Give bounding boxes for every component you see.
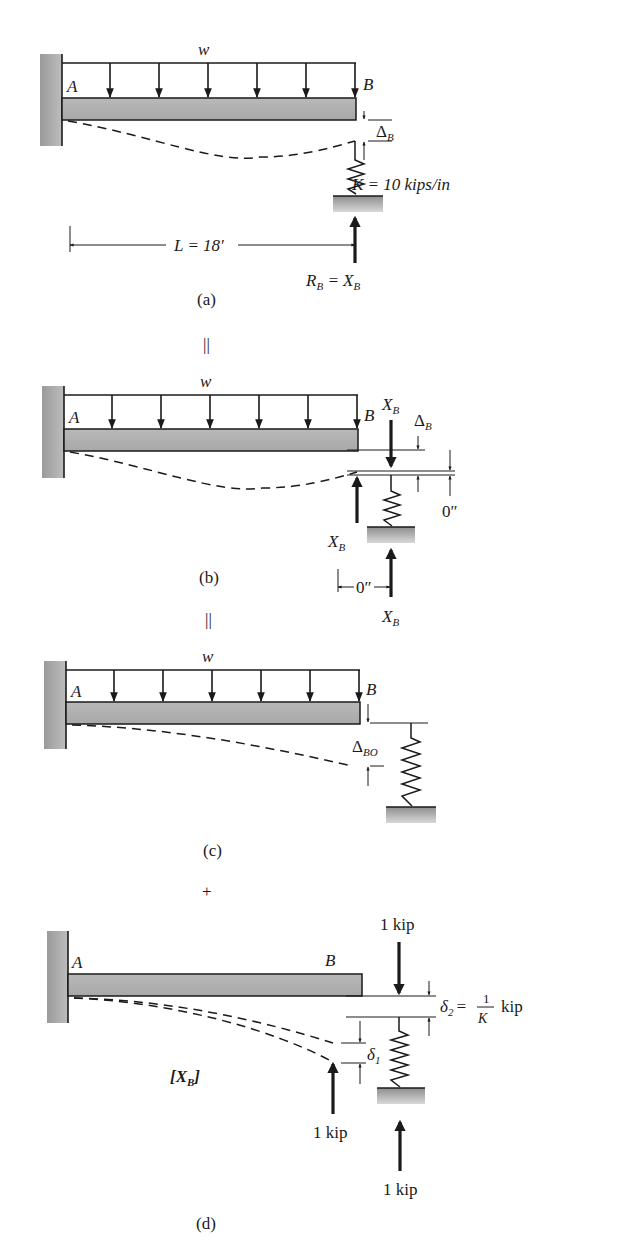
point-label-a: A xyxy=(68,408,80,427)
spring xyxy=(384,475,400,526)
cantilever-beam xyxy=(66,702,360,724)
deflection-label: ΔB xyxy=(414,411,432,432)
point-label-b: B xyxy=(366,680,377,699)
deflected-shape xyxy=(70,452,357,489)
equals-separator-2: || xyxy=(205,610,212,629)
span-label: L = 18′ xyxy=(173,236,224,255)
spring-top-force-label: XB xyxy=(381,395,399,416)
fixed-support-wall xyxy=(42,386,64,478)
spring-bottom-force-label: 1 kip xyxy=(383,1180,417,1199)
fixed-support-wall xyxy=(40,54,62,146)
delta2-label: δ2= 1 K kip xyxy=(440,991,523,1026)
caption-a: (a) xyxy=(197,290,216,309)
delta1-label: δ1 xyxy=(367,1045,380,1066)
reaction-label: RB = XB xyxy=(305,271,360,292)
deflected-shape-rigid xyxy=(74,998,333,1062)
caption-d: (d) xyxy=(196,1214,216,1233)
svg-text:δ2=: δ2= xyxy=(440,997,467,1018)
diagram-canvas: w A B ΔB K = 10 kips/in L = 18′ RB = XB … xyxy=(0,0,621,1258)
spring xyxy=(402,723,420,806)
spring-top-force-label: 1 kip xyxy=(380,915,414,934)
svg-text:kip: kip xyxy=(501,997,523,1016)
svg-text:K: K xyxy=(477,1011,488,1026)
offset-label: 0″ xyxy=(356,578,372,597)
spring-ground xyxy=(367,527,415,543)
cantilever-beam xyxy=(64,429,358,451)
point-label-b: B xyxy=(325,951,336,970)
spring-stiffness-label: K = 10 kips/in xyxy=(351,175,450,194)
cantilever-beam xyxy=(62,98,356,120)
plus-separator: + xyxy=(202,882,212,901)
fixed-support-wall xyxy=(47,931,68,1023)
deflection-label: ΔB xyxy=(376,122,394,143)
load-label-w: w xyxy=(202,647,214,666)
spring-bottom-force-label: XB xyxy=(381,607,399,628)
point-label-b: B xyxy=(364,406,375,425)
deflected-shape xyxy=(68,121,355,158)
caption-b: (b) xyxy=(199,568,219,587)
deflection-label: ΔBO xyxy=(352,737,378,758)
deflected-shape-spring xyxy=(74,998,333,1043)
fixed-support-wall xyxy=(44,661,66,749)
spring-ground xyxy=(333,196,383,212)
svg-text:1: 1 xyxy=(483,991,490,1006)
redundant-label: [XB] xyxy=(170,1067,200,1088)
distributed-load xyxy=(62,63,356,97)
beam-force-label: XB xyxy=(327,532,345,553)
point-label-a: A xyxy=(71,953,83,972)
point-label-a: A xyxy=(66,77,78,96)
load-label-w: w xyxy=(200,372,212,391)
panel-b: w A B XB XB ΔB 0″ 0″ XB (b) xyxy=(42,372,458,628)
spring xyxy=(391,1017,408,1087)
panel-a: w A B ΔB K = 10 kips/in L = 18′ RB = XB … xyxy=(40,40,450,309)
panel-d: A B [XB] 1 kip δ1 1 kip δ2= 1 K kip 1 ki… xyxy=(47,915,523,1233)
caption-c: (c) xyxy=(203,841,222,860)
cantilever-beam xyxy=(68,974,362,996)
spring-ground xyxy=(386,807,436,823)
distributed-load xyxy=(64,395,358,428)
deflected-shape xyxy=(72,725,352,766)
beam-force-label: 1 kip xyxy=(313,1123,347,1142)
point-label-b: B xyxy=(363,75,374,94)
point-label-a: A xyxy=(70,682,82,701)
equals-separator-1: || xyxy=(203,335,210,354)
distributed-load xyxy=(66,670,360,701)
panel-c: w A B ΔBO (c) xyxy=(44,647,436,860)
gap-label: 0″ xyxy=(442,502,458,521)
spring-ground xyxy=(377,1088,425,1104)
load-label-w: w xyxy=(198,40,210,59)
